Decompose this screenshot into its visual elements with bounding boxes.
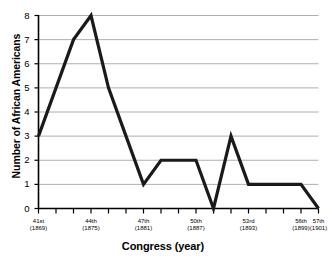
x-tick-congress: 57th <box>303 218 332 226</box>
x-tick-year: (1893) <box>233 225 265 233</box>
x-tick-congress: 53rd <box>233 218 265 226</box>
x-tick-year: (1881) <box>128 225 160 233</box>
x-tick-congress: 50th <box>180 218 212 226</box>
x-tick-year: (1887) <box>180 225 212 233</box>
y-axis-tick-label: 2 <box>14 155 30 165</box>
x-axis-tick-label: 47th(1881) <box>128 218 160 233</box>
x-axis-tick-label: 44th(1875) <box>75 218 107 233</box>
x-tick-congress: 47th <box>128 218 160 226</box>
x-tick-year: (1901) <box>303 225 332 233</box>
x-axis-tick-label: 57th(1901) <box>303 218 332 233</box>
x-axis-tick-label: 53rd(1893) <box>233 218 265 233</box>
y-axis-tick-label: 7 <box>14 35 30 45</box>
x-axis-tick-label: 50th(1887) <box>180 218 212 233</box>
y-axis-tick-label: 4 <box>14 107 30 117</box>
x-axis-tick-label: 41st(1869) <box>23 218 55 233</box>
x-tick-year: (1875) <box>75 225 107 233</box>
y-axis-tick-label: 0 <box>14 204 30 214</box>
y-axis-tick-label: 5 <box>14 83 30 93</box>
x-tick-congress: 44th <box>75 218 107 226</box>
y-axis-tick-label: 3 <box>14 131 30 141</box>
x-axis-title: Congress (year) <box>0 240 326 252</box>
y-axis-tick-label: 8 <box>14 11 30 21</box>
y-axis-tick-label: 1 <box>14 179 30 189</box>
x-tick-year: (1869) <box>23 225 55 233</box>
x-tick-congress: 41st <box>23 218 55 226</box>
y-axis-tick-label: 6 <box>14 59 30 69</box>
